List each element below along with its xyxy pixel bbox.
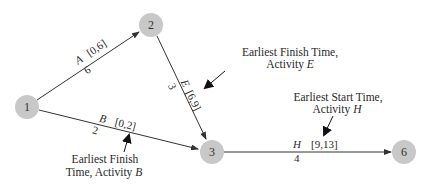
arrow-pointer-icon	[324, 116, 333, 135]
annotation-e-finish: Earliest Finish Time, Activity E	[205, 46, 338, 88]
edge-E-activity: E	[178, 76, 192, 88]
arrow-pointer-icon	[205, 71, 225, 88]
edge-H-activity: H	[292, 138, 302, 150]
edge-A: A [0,6] 6	[37, 32, 139, 100]
edge-E-times: [6,9]	[184, 88, 204, 112]
edge-H-duration: 4	[294, 152, 300, 164]
node-3-label: 3	[209, 145, 215, 159]
edge-B: B [0,2] 2	[39, 110, 198, 149]
annotation-b-finish: Earliest Finish Time, Activity B	[66, 135, 143, 179]
annotation-b-line2: Time, Activity B	[66, 166, 143, 179]
edge-B-duration: 2	[91, 124, 99, 137]
node-6: 6	[392, 140, 416, 164]
edge-E-duration: 3	[166, 81, 179, 92]
network-diagram: A [0,6] 6 B [0,2] 2 E [6,9] 3 H [9,13] 4…	[0, 0, 429, 186]
node-6-label: 6	[401, 145, 407, 159]
annotation-b-line1: Earliest Finish	[72, 153, 139, 165]
annotation-h-start: Earliest Start Time, Activity H	[293, 91, 382, 135]
edge-H-times: [9,13]	[311, 138, 338, 150]
edge-B-times: [0,2]	[114, 116, 137, 133]
node-1-label: 1	[24, 100, 30, 114]
edge-H: H [9,13] 4	[224, 138, 391, 164]
node-3: 3	[200, 140, 224, 164]
annotation-e-line2: Activity E	[266, 58, 314, 71]
edge-A-duration: 6	[81, 63, 93, 76]
node-1: 1	[15, 95, 39, 119]
node-2: 2	[139, 13, 163, 37]
annotation-h-line2: Activity H	[313, 103, 363, 116]
node-2-label: 2	[148, 18, 154, 32]
edge-B-activity: B	[98, 112, 108, 125]
arrow-pointer-icon	[124, 135, 129, 152]
edge-E: E [6,9] 3	[157, 36, 206, 139]
